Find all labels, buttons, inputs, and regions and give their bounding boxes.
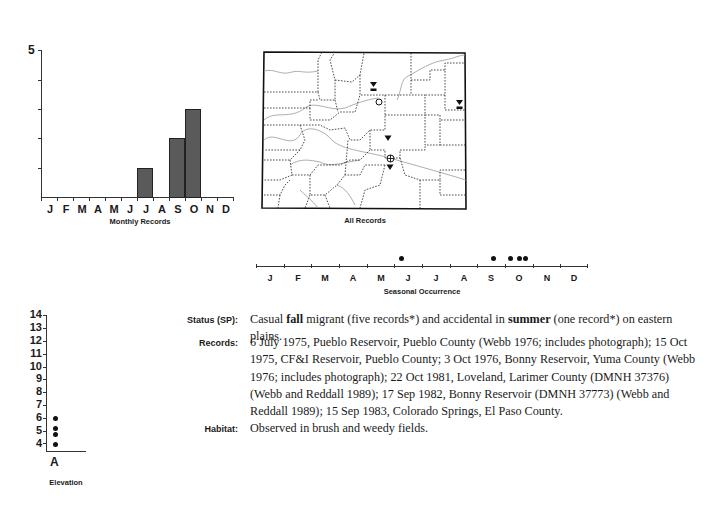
- elevation-label: 13: [22, 321, 42, 333]
- y-tick: [43, 315, 47, 316]
- elevation-label: 14: [22, 308, 42, 320]
- month-label: D: [560, 273, 588, 283]
- status-text-part: Casual: [250, 312, 286, 326]
- month-label: J: [122, 203, 138, 215]
- y-tick: [43, 379, 47, 380]
- x-tick: [41, 197, 42, 201]
- x-tick: [73, 197, 74, 201]
- status-label: Status (SP):: [148, 315, 238, 325]
- elevation-dot: [53, 426, 58, 431]
- bar-july: [137, 168, 153, 198]
- timeline-tick: [505, 264, 506, 268]
- y-tick: [43, 392, 47, 393]
- month-label: D: [218, 203, 234, 215]
- elevation-label: 4: [22, 437, 42, 449]
- month-label: F: [58, 203, 74, 215]
- y-tick: [43, 443, 47, 444]
- bar-october: [185, 109, 201, 198]
- month-label: M: [367, 273, 395, 283]
- occurrence-dot: [517, 256, 522, 261]
- month-label: A: [90, 203, 106, 215]
- elevation-label: 9: [22, 372, 42, 384]
- elevation-label: 12: [22, 334, 42, 346]
- y-tick: [38, 80, 42, 81]
- x-axis: [46, 451, 86, 452]
- month-label: N: [533, 273, 561, 283]
- elevation-dot: [53, 442, 58, 447]
- timeline-tick: [422, 264, 423, 268]
- occurrence-dot: [399, 256, 404, 261]
- bar-september: [169, 138, 185, 198]
- occurrence-dot: [491, 256, 496, 261]
- elevation-label: 10: [22, 360, 42, 372]
- y-tick: [43, 328, 47, 329]
- x-tick: [169, 197, 170, 201]
- timeline-tick: [256, 264, 257, 268]
- month-label: A: [154, 203, 170, 215]
- elevation-label: 8: [22, 385, 42, 397]
- elevation-label: 6: [22, 411, 42, 423]
- chart-caption: Monthly Records: [80, 217, 200, 226]
- timeline-tick: [533, 264, 534, 268]
- records-text: 6 July 1975, Pueblo Reservoir, Pueblo Co…: [250, 334, 698, 420]
- habitat-label: Habitat:: [148, 424, 238, 434]
- x-category-label: A: [50, 455, 59, 469]
- timeline-tick: [367, 264, 368, 268]
- y-tick: [38, 138, 42, 139]
- month-label: J: [422, 273, 450, 283]
- occurrence-dot: [523, 256, 528, 261]
- open-circle-marker: [375, 98, 383, 106]
- timeline-tick: [477, 264, 478, 268]
- y-tick: [43, 418, 47, 419]
- elevation-caption: Elevation: [36, 478, 96, 487]
- y-tick: [43, 367, 47, 368]
- y-axis: [41, 50, 42, 197]
- elevation-label: 7: [22, 398, 42, 410]
- elevation-label: 11: [22, 347, 42, 359]
- timeline-tick: [339, 264, 340, 268]
- record-triangle-marker: [384, 135, 392, 142]
- record-with-photo-marker: [369, 82, 378, 92]
- month-label: M: [74, 203, 90, 215]
- x-tick: [217, 197, 218, 201]
- x-tick: [121, 197, 122, 201]
- map-caption: All Records: [305, 216, 425, 225]
- y-axis-max-label: 5: [28, 43, 35, 57]
- y-tick: [38, 168, 42, 169]
- x-tick: [105, 197, 106, 201]
- habitat-text: Observed in brush and weedy fields.: [250, 420, 700, 437]
- month-label: O: [505, 273, 533, 283]
- status-text-part: migrant (five records*) and accidental i…: [303, 312, 508, 326]
- y-tick: [38, 50, 42, 51]
- y-tick: [43, 431, 47, 432]
- x-tick: [201, 197, 202, 201]
- status-season-summer: summer: [508, 312, 551, 326]
- x-tick: [137, 197, 138, 201]
- y-tick: [43, 405, 47, 406]
- y-tick: [43, 341, 47, 342]
- month-label: A: [339, 273, 367, 283]
- timeline-tick: [284, 264, 285, 268]
- record-triangle-marker: [386, 164, 394, 171]
- timeline-tick: [394, 264, 395, 268]
- month-label: M: [311, 273, 339, 283]
- month-label: A: [450, 273, 478, 283]
- x-tick: [89, 197, 90, 201]
- month-label: J: [256, 273, 284, 283]
- month-label: S: [477, 273, 505, 283]
- records-label: Records:: [148, 338, 238, 348]
- colorado-county-map: [258, 48, 470, 214]
- occurrence-dot: [508, 256, 513, 261]
- timeline-tick: [311, 264, 312, 268]
- month-label: F: [284, 273, 312, 283]
- month-label: M: [106, 203, 122, 215]
- month-label: J: [138, 203, 154, 215]
- x-tick: [57, 197, 58, 201]
- status-season-fall: fall: [286, 312, 303, 326]
- record-with-photo-marker: [455, 100, 464, 110]
- elevation-dot: [53, 432, 58, 437]
- timeline-tick: [587, 264, 588, 268]
- month-label: J: [394, 273, 422, 283]
- y-tick: [38, 109, 42, 110]
- timeline-tick: [450, 264, 451, 268]
